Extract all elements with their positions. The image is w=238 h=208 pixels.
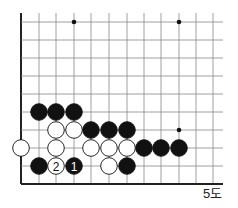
move-number-label: 2 <box>53 160 60 174</box>
black-stone <box>136 140 153 157</box>
white-stone <box>83 140 100 157</box>
black-stone <box>119 158 136 175</box>
white-stone <box>48 140 65 157</box>
black-stone <box>31 158 48 175</box>
star-point <box>177 20 182 25</box>
white-stone <box>66 122 83 139</box>
star-point <box>177 128 182 133</box>
white-stone <box>48 122 65 139</box>
white-stone <box>101 140 118 157</box>
star-point <box>72 20 77 25</box>
white-stone <box>119 140 136 157</box>
white-stone <box>13 140 30 157</box>
black-stone <box>153 140 170 157</box>
diagram-caption: 5도 <box>203 183 222 202</box>
black-stone <box>48 104 65 121</box>
move-number-label: 1 <box>71 160 78 174</box>
black-stone <box>119 122 136 139</box>
black-stone <box>171 140 188 157</box>
go-board: 21 <box>0 0 238 208</box>
black-stone <box>66 104 83 121</box>
black-stone <box>31 104 48 121</box>
black-stone <box>83 122 100 139</box>
white-stone <box>101 158 118 175</box>
black-stone <box>101 122 118 139</box>
